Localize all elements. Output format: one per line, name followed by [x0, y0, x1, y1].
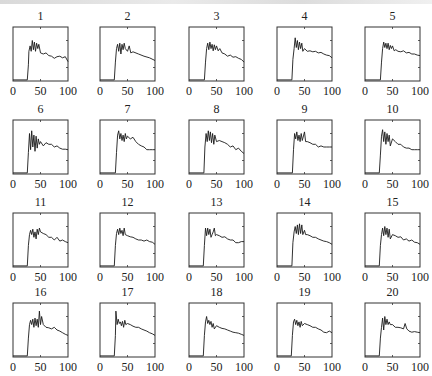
x-tick-label: 0	[97, 271, 103, 283]
x-tick-label: 100	[411, 361, 429, 373]
panel-plot	[188, 302, 245, 358]
panel-title: 16	[35, 286, 47, 298]
x-tick-label: 0	[274, 271, 280, 283]
x-tick-label: 0	[186, 85, 192, 97]
axes-box	[365, 120, 420, 174]
x-tick-label: 100	[235, 85, 253, 97]
x-tick-label: 100	[323, 178, 341, 190]
panel-title: 10	[387, 103, 399, 115]
x-tick-label: 0	[274, 178, 280, 190]
panel-plot	[99, 212, 156, 268]
x-tick-label: 50	[35, 271, 47, 283]
x-tick-label: 50	[122, 271, 134, 283]
axes-box	[189, 120, 244, 174]
panel-title: 19	[299, 286, 311, 298]
axes-box	[13, 303, 68, 357]
panel-plot	[99, 26, 156, 82]
panel-title: 20	[387, 286, 399, 298]
panel-plot	[364, 119, 421, 175]
x-tick-label: 50	[211, 271, 223, 283]
x-tick-label: 100	[323, 85, 341, 97]
x-tick-label: 0	[274, 361, 280, 373]
x-tick-label: 100	[323, 361, 341, 373]
panel-title: 9	[302, 103, 308, 115]
x-tick-label: 50	[387, 361, 399, 373]
axes-box	[13, 120, 68, 174]
x-tick-label: 50	[299, 85, 311, 97]
panel-title: 12	[122, 196, 134, 208]
x-tick-label: 100	[411, 85, 429, 97]
x-tick-label: 100	[146, 178, 164, 190]
panel-plot	[99, 119, 156, 175]
panel-title: 6	[38, 103, 44, 115]
panel-title: 15	[387, 196, 399, 208]
x-tick-label: 100	[411, 271, 429, 283]
panel-title: 4	[302, 10, 308, 22]
panel-plot	[364, 302, 421, 358]
x-tick-label: 100	[235, 271, 253, 283]
x-tick-label: 100	[235, 361, 253, 373]
axes-box	[189, 303, 244, 357]
x-tick-label: 0	[362, 271, 368, 283]
axes-box	[365, 303, 420, 357]
axes-box	[100, 120, 155, 174]
panel-plot	[99, 302, 156, 358]
axes-box	[13, 213, 68, 267]
x-tick-label: 100	[146, 85, 164, 97]
panel-title: 18	[211, 286, 223, 298]
x-tick-label: 50	[122, 361, 134, 373]
panel-plot	[276, 119, 333, 175]
small-multiples-grid: 1050100205010030501004050100505010060501…	[0, 0, 432, 376]
x-tick-label: 0	[362, 178, 368, 190]
x-tick-label: 0	[97, 178, 103, 190]
panel-title: 13	[211, 196, 223, 208]
x-tick-label: 0	[362, 361, 368, 373]
panel-title: 7	[125, 103, 131, 115]
x-tick-label: 50	[299, 271, 311, 283]
axes-box	[100, 27, 155, 81]
panel-title: 11	[35, 196, 47, 208]
x-tick-label: 50	[35, 85, 47, 97]
x-tick-label: 50	[122, 85, 134, 97]
panel-title: 17	[122, 286, 134, 298]
panel-plot	[12, 212, 69, 268]
panel-plot	[276, 212, 333, 268]
x-tick-label: 100	[146, 361, 164, 373]
axes-box	[100, 303, 155, 357]
x-tick-label: 100	[59, 361, 77, 373]
axes-box	[277, 213, 332, 267]
x-tick-label: 0	[10, 85, 16, 97]
panel-plot	[276, 302, 333, 358]
panel-plot	[188, 26, 245, 82]
x-tick-label: 0	[274, 85, 280, 97]
x-tick-label: 50	[211, 178, 223, 190]
x-tick-label: 50	[211, 85, 223, 97]
panel-title: 14	[299, 196, 311, 208]
x-tick-label: 50	[387, 178, 399, 190]
panel-plot	[276, 26, 333, 82]
x-tick-label: 0	[97, 361, 103, 373]
x-tick-label: 0	[362, 85, 368, 97]
x-tick-label: 50	[299, 178, 311, 190]
panel-title: 1	[38, 10, 44, 22]
x-tick-label: 100	[59, 178, 77, 190]
x-tick-label: 50	[122, 178, 134, 190]
x-tick-label: 0	[10, 361, 16, 373]
x-tick-label: 50	[211, 361, 223, 373]
panel-plot	[12, 302, 69, 358]
panel-plot	[364, 26, 421, 82]
x-tick-label: 100	[59, 85, 77, 97]
panel-plot	[188, 212, 245, 268]
x-tick-label: 50	[35, 178, 47, 190]
x-tick-label: 50	[387, 85, 399, 97]
x-tick-label: 50	[35, 361, 47, 373]
panel-title: 2	[125, 10, 131, 22]
panel-plot	[12, 119, 69, 175]
x-tick-label: 50	[387, 271, 399, 283]
x-tick-label: 0	[186, 361, 192, 373]
axes-box	[189, 27, 244, 81]
x-tick-label: 0	[186, 178, 192, 190]
x-tick-label: 100	[146, 271, 164, 283]
panel-plot	[364, 212, 421, 268]
x-tick-label: 100	[235, 178, 253, 190]
